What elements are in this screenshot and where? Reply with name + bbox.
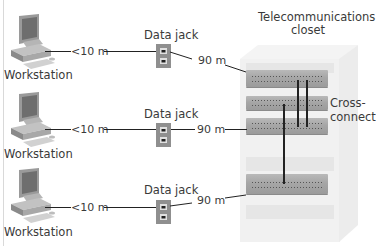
long-cable bbox=[171, 129, 195, 130]
long-cable-length: 90 m bbox=[197, 194, 225, 207]
patch-panel-3 bbox=[246, 118, 328, 134]
cross-connect-label: Cross- connect bbox=[330, 96, 376, 124]
workstation-computer-icon bbox=[9, 168, 59, 226]
rack-shelf bbox=[246, 205, 334, 219]
cross-connect-label-line1: Cross- bbox=[330, 96, 376, 110]
short-cable bbox=[104, 51, 162, 52]
patch-panel-1 bbox=[246, 70, 328, 87]
workstation-row-2: Workstation <10 m Data jack 90 m bbox=[0, 78, 240, 160]
data-jack-label: Data jack bbox=[144, 108, 198, 121]
patch-panel-2 bbox=[246, 96, 328, 110]
workstation-label: Workstation bbox=[4, 226, 73, 239]
workstation-row-3: Workstation <10 m Data jack 90 m bbox=[0, 154, 240, 246]
cross-connect-cable bbox=[283, 104, 285, 184]
data-jack-icon bbox=[156, 44, 171, 68]
data-jack-icon bbox=[156, 123, 171, 147]
short-cable bbox=[45, 129, 71, 130]
cross-connect-label-line2: connect bbox=[330, 110, 376, 124]
cross-connect-cable bbox=[306, 80, 308, 127]
short-cable bbox=[104, 207, 162, 208]
long-cable-length: 90 m bbox=[198, 54, 226, 67]
short-cable bbox=[104, 129, 162, 130]
short-cable-length: <10 m bbox=[71, 45, 108, 58]
long-cable-length: 90 m bbox=[197, 123, 225, 136]
workstation-computer-icon bbox=[9, 92, 59, 150]
cross-connect-cable bbox=[297, 80, 299, 127]
short-cable-length: <10 m bbox=[71, 123, 108, 136]
workstation-row-1: Workstation <10 m Data jack 90 m bbox=[0, 0, 240, 82]
short-cable bbox=[45, 51, 71, 52]
long-cable bbox=[225, 129, 247, 130]
short-cable-length: <10 m bbox=[71, 201, 108, 214]
workstation-computer-icon bbox=[9, 14, 59, 72]
data-jack-label: Data jack bbox=[144, 29, 198, 42]
closet-title-line2: closet bbox=[258, 24, 358, 37]
closet-title: Telecommunications closet bbox=[258, 11, 358, 37]
data-jack-icon bbox=[156, 200, 171, 224]
short-cable bbox=[45, 207, 71, 208]
patch-panel-4 bbox=[246, 174, 328, 194]
rack-shelf bbox=[246, 157, 334, 171]
rack-side-face bbox=[339, 45, 360, 245]
